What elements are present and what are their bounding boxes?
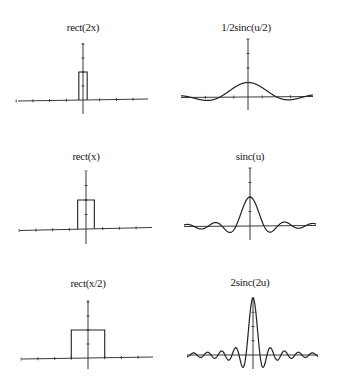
plot-title-half-sinc-half-u: 1/2sinc(u/2) [221, 21, 271, 33]
x-axis [22, 357, 153, 359]
plot-rect-x-half [21, 300, 153, 369]
plot-title-rect-x-half: rect(x/2) [70, 277, 105, 289]
plot-two-sinc-2u [187, 298, 318, 369]
plot-rect-x [19, 171, 152, 244]
sinc-curve [187, 298, 318, 367]
x-axis [181, 97, 313, 98]
plot-title-sinc-u: sinc(u) [236, 150, 264, 162]
fourier-pairs-figure [0, 0, 341, 388]
plot-title-rect-2x: rect(2x) [67, 21, 99, 33]
plot-sinc-u [184, 168, 316, 240]
plot-half-sinc-half-u [181, 39, 313, 110]
plot-title-rect-x: rect(x) [72, 150, 99, 162]
plot-title-two-sinc-2u: 2sinc(2u) [231, 276, 270, 288]
plot-rect-2x [16, 43, 148, 114]
